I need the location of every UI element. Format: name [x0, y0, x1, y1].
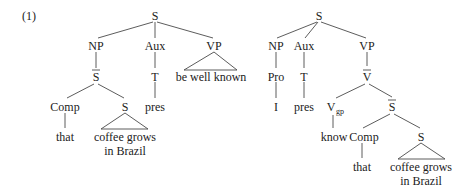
node-vbar: V	[363, 70, 372, 84]
edge-vbar-v	[336, 84, 365, 98]
edge-sbar-s	[98, 84, 124, 98]
vp-terminal: be well known	[176, 70, 247, 84]
clause-line-2: in Brazil	[400, 174, 442, 188]
node-pres: pres	[294, 100, 314, 114]
node-pres: pres	[145, 100, 165, 114]
edge-vbar-sbar	[369, 84, 392, 97]
edge-sbar-comp	[363, 114, 390, 128]
clause-line-1: coffee grows	[390, 160, 452, 174]
edge-sbar-comp	[67, 84, 94, 98]
clause-triangle	[398, 143, 445, 159]
node-aux: Aux	[294, 39, 315, 53]
v-subscript: gp	[336, 107, 344, 116]
edge-sbar-s	[394, 114, 420, 128]
node-s-embedded: S	[418, 130, 425, 144]
node-vp: VP	[359, 39, 375, 53]
node-s-root: S	[316, 9, 323, 23]
clause-line-1: coffee grows	[94, 130, 156, 144]
node-sbar: S	[92, 70, 100, 84]
node-s-root: S	[152, 9, 159, 23]
node-sbar: S	[388, 100, 396, 114]
edge-s-vp	[157, 22, 213, 38]
terminal-know: know	[321, 130, 348, 144]
svg-text:V: V	[363, 70, 372, 84]
clause-line-2: in Brazil	[104, 144, 146, 158]
terminal-that: that	[56, 130, 75, 144]
node-np: NP	[88, 39, 104, 53]
node-t: T	[151, 70, 159, 84]
node-v-gp: V gp	[327, 100, 344, 116]
svg-text:S: S	[389, 100, 396, 114]
svg-text:V: V	[327, 100, 336, 114]
node-t: T	[300, 70, 308, 84]
node-pro: Pro	[268, 70, 285, 84]
node-comp: Comp	[50, 100, 79, 114]
node-s-embedded: S	[122, 100, 129, 114]
node-aux: Aux	[145, 39, 166, 53]
node-comp: Comp	[349, 130, 378, 144]
vp-triangle	[184, 52, 237, 70]
example-number: (1)	[22, 9, 36, 23]
right-tree: S NP Aux VP Pro T V I pres V gp S know C…	[268, 9, 453, 188]
terminal-that: that	[353, 160, 372, 174]
left-tree: S NP Aux VP S T be well known Comp S pre…	[50, 9, 246, 158]
node-np: NP	[268, 39, 284, 53]
edge-s-np	[98, 22, 153, 38]
svg-text:S: S	[93, 70, 100, 84]
terminal-i: I	[274, 100, 278, 114]
syntax-tree-diagram: (1) S NP Aux VP S T be well known Comp S…	[0, 0, 470, 193]
clause-triangle	[101, 113, 148, 129]
edge-s-vp	[321, 22, 366, 38]
node-vp: VP	[206, 39, 222, 53]
